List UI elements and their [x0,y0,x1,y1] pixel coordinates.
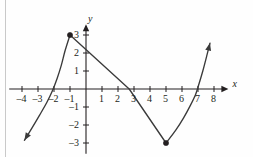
x-tick-label-4: 4 [147,94,152,104]
x-tick-label--4: –4 [17,94,27,104]
x-tick-label--3: –3 [33,94,43,104]
x-tick-label-8: 8 [211,94,216,104]
axes-layer [9,24,228,154]
x-axis-arrowhead [221,86,228,92]
y-tick-label--2: –2 [69,120,79,130]
curve-left-branch [24,35,70,140]
x-tick-label-6: 6 [179,94,184,104]
x-tick-label-2: 2 [115,94,120,104]
x-tick-label-3: 3 [131,94,136,104]
curve-right-branch [166,43,210,143]
x-tick-label-1: 1 [99,94,104,104]
x-axis-label: x [232,79,236,89]
marked-point-local-min [163,140,168,145]
x-tick-label-7: 7 [195,94,200,104]
y-tick-label--3: –3 [69,138,79,148]
x-tick-label--2: –2 [49,94,59,104]
y-axis-arrowhead [83,24,89,31]
plot-canvas [0,0,253,157]
marked-point-local-max [67,32,72,37]
y-axis-label: y [88,14,92,24]
graph-figure: –4–3–2–112345678321–1–2–3 x y [0,0,253,157]
x-tick-label-5: 5 [163,94,168,104]
y-tick-label-1: 1 [74,66,79,76]
y-tick-label-2: 2 [74,48,79,58]
arrowhead-left-branch-start [24,132,30,140]
y-tick-label--1: –1 [69,102,79,112]
y-tick-label-3: 3 [74,30,79,40]
